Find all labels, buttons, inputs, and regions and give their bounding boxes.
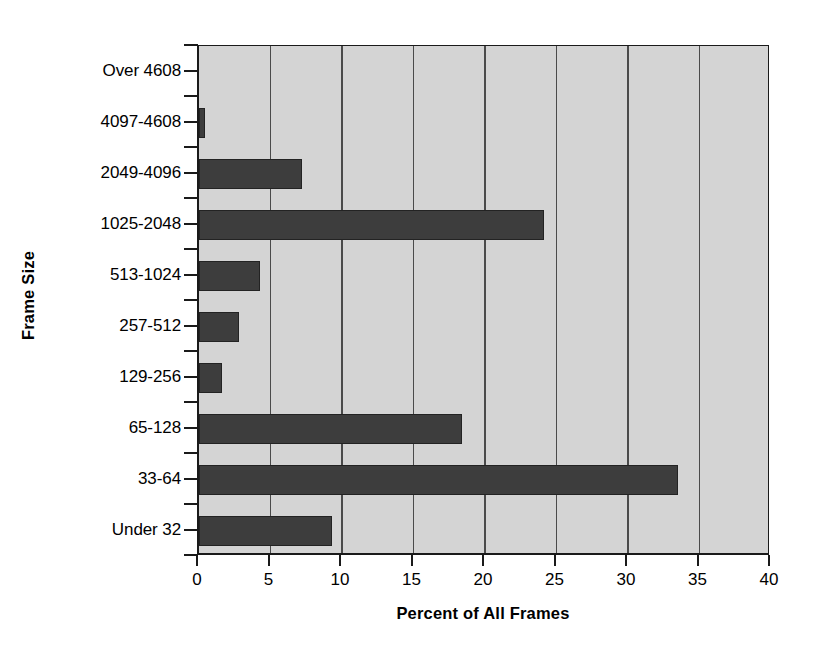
y-axis-tick-label: Under 32: [0, 520, 181, 540]
bar: [199, 210, 544, 240]
y-axis-minor-tick: [184, 44, 198, 46]
y-axis-major-tick: [184, 172, 198, 174]
y-axis-minor-tick: [184, 197, 198, 199]
gridline-x-35: [699, 46, 701, 553]
bar: [199, 312, 239, 342]
x-axis-tick: [268, 555, 270, 566]
y-axis-tick-label: 4097-4608: [0, 112, 181, 132]
y-axis-minor-tick: [184, 299, 198, 301]
bar: [199, 159, 302, 189]
y-axis-major-tick: [184, 478, 198, 480]
y-axis-tick-label: Over 4608: [0, 61, 181, 81]
y-axis-tick-label: 129-256: [0, 367, 181, 387]
x-axis-tick-label: 5: [264, 570, 273, 590]
x-axis-tick-label: 15: [402, 570, 421, 590]
x-axis-tick-label: 0: [192, 570, 201, 590]
x-axis-tick-label: 30: [617, 570, 636, 590]
y-axis-tick-labels: Over 46084097-46082049-40961025-2048513-…: [0, 45, 181, 555]
x-axis-tick: [768, 555, 770, 566]
y-axis-tick-label: 1025-2048: [0, 214, 181, 234]
y-axis-tick-label: 513-1024: [0, 265, 181, 285]
y-axis-major-tick: [184, 121, 198, 123]
bar: [199, 516, 332, 546]
x-axis-tick-label: 40: [760, 570, 779, 590]
y-axis-major-tick: [184, 427, 198, 429]
y-axis-tick-label: 257-512: [0, 316, 181, 336]
x-axis-tick-label: 20: [474, 570, 493, 590]
x-axis-tick: [697, 555, 699, 566]
y-axis-minor-tick: [184, 350, 198, 352]
x-axis-tick: [482, 555, 484, 566]
y-axis-minor-tick: [184, 503, 198, 505]
y-axis-major-tick: [184, 376, 198, 378]
x-axis-tick-label: 10: [331, 570, 350, 590]
x-axis-tick: [625, 555, 627, 566]
x-axis-tick: [196, 555, 198, 566]
y-axis-tick-label: 2049-4096: [0, 163, 181, 183]
y-axis-major-tick: [184, 529, 198, 531]
bar: [199, 261, 260, 291]
x-axis-tick: [339, 555, 341, 566]
x-axis-tick: [411, 555, 413, 566]
x-axis-tick-label: 25: [545, 570, 564, 590]
y-axis-tick-label: 33-64: [0, 469, 181, 489]
y-axis-minor-tick: [184, 452, 198, 454]
bar-chart: Frame Size Over 46084097-46082049-409610…: [0, 0, 816, 664]
y-axis-minor-tick: [184, 248, 198, 250]
x-axis-title: Percent of All Frames: [197, 604, 769, 623]
y-axis-minor-tick: [184, 95, 198, 97]
bar: [199, 414, 462, 444]
bar: [199, 465, 678, 495]
y-axis-minor-tick: [184, 401, 198, 403]
y-axis-tick-label: 65-128: [0, 418, 181, 438]
y-axis-major-tick: [184, 223, 198, 225]
bar: [199, 363, 222, 393]
bar: [199, 108, 205, 138]
plot-area: [197, 45, 769, 555]
x-axis-tick-label: 35: [688, 570, 707, 590]
x-axis-tick: [554, 555, 556, 566]
y-axis-major-tick: [184, 325, 198, 327]
y-axis-major-tick: [184, 274, 198, 276]
y-axis-major-tick: [184, 70, 198, 72]
y-axis-minor-tick: [184, 146, 198, 148]
